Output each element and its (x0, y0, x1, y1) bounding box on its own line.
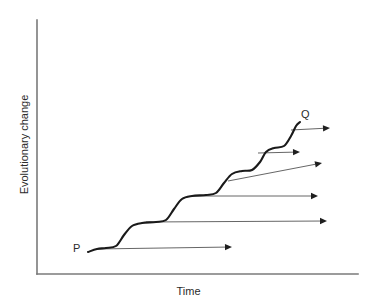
branch-arrows-group (96, 125, 330, 250)
branch-arrow-set (96, 125, 330, 250)
diagram-canvas (0, 0, 377, 306)
point-p-label: P (73, 243, 80, 254)
evolutionary-change-diagram: P Q Time Evolutionary change (0, 0, 377, 306)
branch-6-shaft (291, 128, 323, 130)
branch-4-shaft (228, 164, 315, 181)
branch-6-arrowhead (323, 125, 330, 131)
branch-2-shaft (146, 221, 320, 222)
branch-5-arrowhead (293, 149, 300, 155)
branch-2-arrowhead (320, 218, 327, 224)
branch-3-arrowhead (311, 193, 318, 199)
branch-5-shaft (258, 152, 293, 153)
axes-group (37, 20, 358, 274)
lineage-curve-group (88, 122, 300, 252)
y-axis-label: Evolutionary change (19, 55, 30, 235)
branch-1-arrowhead (225, 244, 232, 250)
point-q-label: Q (301, 109, 310, 120)
punctuated-equilibrium-curve (88, 122, 300, 252)
x-axis-label: Time (0, 286, 377, 297)
branch-2 (146, 218, 327, 224)
branch-4-arrowhead (315, 161, 322, 167)
